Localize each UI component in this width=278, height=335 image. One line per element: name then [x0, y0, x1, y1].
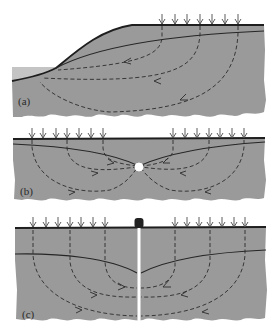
panel-a: (a)	[12, 14, 266, 117]
well-casing	[138, 228, 141, 321]
panel-label-b: (b)	[20, 185, 33, 198]
groundwater-flow-diagram: (a)	[0, 0, 278, 335]
spring-discharge-point	[135, 163, 143, 171]
recharge-arrows-a	[159, 14, 241, 24]
well-cap	[135, 218, 144, 228]
panel-label-a: (a)	[18, 95, 31, 108]
recharge-arrows-b	[29, 128, 247, 138]
panel-b: (b)	[13, 128, 266, 200]
panel-c: (c)	[15, 217, 267, 321]
panel-label-c: (c)	[22, 308, 35, 321]
ground-c	[15, 227, 267, 320]
land-surface-b	[13, 138, 265, 139]
